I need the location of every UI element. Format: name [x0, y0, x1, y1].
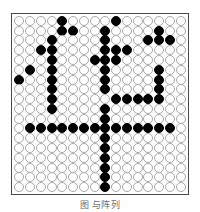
- bead-empty-icon: [25, 45, 35, 55]
- bead-empty-icon: [14, 104, 24, 114]
- bead-filled-icon: [111, 45, 121, 55]
- empty-bead-cell: [122, 153, 133, 163]
- empty-bead-cell: [111, 36, 122, 46]
- empty-bead-cell: [100, 94, 111, 104]
- empty-bead-cell: [122, 114, 133, 124]
- filled-bead-cell: [111, 124, 122, 134]
- bead-empty-icon: [25, 133, 35, 143]
- empty-bead-cell: [79, 75, 90, 85]
- empty-bead-cell: [14, 84, 25, 94]
- empty-bead-cell: [111, 143, 122, 153]
- bead-empty-icon: [111, 35, 121, 45]
- empty-bead-cell: [122, 163, 133, 173]
- empty-bead-cell: [79, 114, 90, 124]
- bead-empty-icon: [14, 84, 24, 94]
- bead-empty-icon: [133, 172, 143, 182]
- empty-bead-cell: [175, 16, 186, 26]
- filled-bead-cell: [100, 114, 111, 124]
- bead-empty-icon: [14, 133, 24, 143]
- empty-bead-cell: [57, 55, 68, 65]
- bead-empty-icon: [165, 45, 175, 55]
- empty-bead-cell: [57, 36, 68, 46]
- filled-bead-cell: [57, 16, 68, 26]
- empty-bead-cell: [36, 153, 47, 163]
- empty-bead-cell: [25, 153, 36, 163]
- empty-bead-cell: [57, 75, 68, 85]
- bead-empty-icon: [90, 94, 100, 104]
- bead-filled-icon: [25, 65, 35, 75]
- empty-bead-cell: [25, 45, 36, 55]
- filled-bead-cell: [132, 94, 143, 104]
- bead-empty-icon: [122, 143, 132, 153]
- empty-bead-cell: [46, 114, 57, 124]
- empty-bead-cell: [165, 55, 176, 65]
- bead-filled-icon: [165, 123, 175, 133]
- filled-bead-cell: [46, 36, 57, 46]
- bead-empty-icon: [25, 163, 35, 173]
- bead-empty-icon: [133, 143, 143, 153]
- bead-filled-icon: [133, 123, 143, 133]
- filled-bead-cell: [154, 94, 165, 104]
- bead-empty-icon: [79, 153, 89, 163]
- filled-bead-cell: [100, 163, 111, 173]
- empty-bead-cell: [79, 16, 90, 26]
- bead-empty-icon: [25, 104, 35, 114]
- bead-empty-icon: [90, 45, 100, 55]
- filled-bead-cell: [100, 55, 111, 65]
- empty-bead-cell: [89, 182, 100, 192]
- empty-bead-cell: [175, 55, 186, 65]
- empty-bead-cell: [154, 114, 165, 124]
- bead-filled-icon: [90, 55, 100, 65]
- bead-empty-icon: [100, 16, 110, 26]
- bead-filled-icon: [47, 94, 57, 104]
- bead-empty-icon: [36, 26, 46, 36]
- bead-filled-icon: [100, 153, 110, 163]
- empty-bead-cell: [132, 133, 143, 143]
- empty-bead-cell: [79, 172, 90, 182]
- bead-filled-icon: [47, 45, 57, 55]
- bead-grid: [14, 16, 186, 192]
- bead-empty-icon: [79, 163, 89, 173]
- bead-empty-icon: [68, 163, 78, 173]
- bead-empty-icon: [122, 163, 132, 173]
- bead-empty-icon: [25, 75, 35, 85]
- empty-bead-cell: [68, 65, 79, 75]
- empty-bead-cell: [175, 26, 186, 36]
- bead-empty-icon: [165, 75, 175, 85]
- bead-empty-icon: [68, 143, 78, 153]
- bead-empty-icon: [154, 16, 164, 26]
- filled-bead-cell: [154, 26, 165, 36]
- bead-empty-icon: [79, 104, 89, 114]
- bead-empty-icon: [25, 94, 35, 104]
- empty-bead-cell: [68, 182, 79, 192]
- bead-empty-icon: [176, 16, 186, 26]
- bead-filled-icon: [154, 123, 164, 133]
- bead-filled-icon: [111, 16, 121, 26]
- bead-empty-icon: [133, 65, 143, 75]
- filled-bead-cell: [100, 75, 111, 85]
- empty-bead-cell: [89, 94, 100, 104]
- bead-filled-icon: [100, 133, 110, 143]
- empty-bead-cell: [111, 114, 122, 124]
- bead-empty-icon: [68, 153, 78, 163]
- empty-bead-cell: [143, 143, 154, 153]
- bead-empty-icon: [165, 163, 175, 173]
- bead-empty-icon: [143, 26, 153, 36]
- bead-empty-icon: [14, 163, 24, 173]
- bead-empty-icon: [47, 153, 57, 163]
- bead-empty-icon: [68, 75, 78, 85]
- bead-empty-icon: [14, 45, 24, 55]
- bead-filled-icon: [100, 182, 110, 192]
- empty-bead-cell: [165, 163, 176, 173]
- empty-bead-cell: [89, 172, 100, 182]
- filled-bead-cell: [46, 55, 57, 65]
- bead-empty-icon: [79, 133, 89, 143]
- bead-empty-icon: [165, 182, 175, 192]
- bead-filled-icon: [79, 123, 89, 133]
- empty-bead-cell: [89, 45, 100, 55]
- bead-empty-icon: [122, 133, 132, 143]
- bead-filled-icon: [154, 26, 164, 36]
- bead-empty-icon: [14, 26, 24, 36]
- empty-bead-cell: [132, 36, 143, 46]
- bead-empty-icon: [36, 172, 46, 182]
